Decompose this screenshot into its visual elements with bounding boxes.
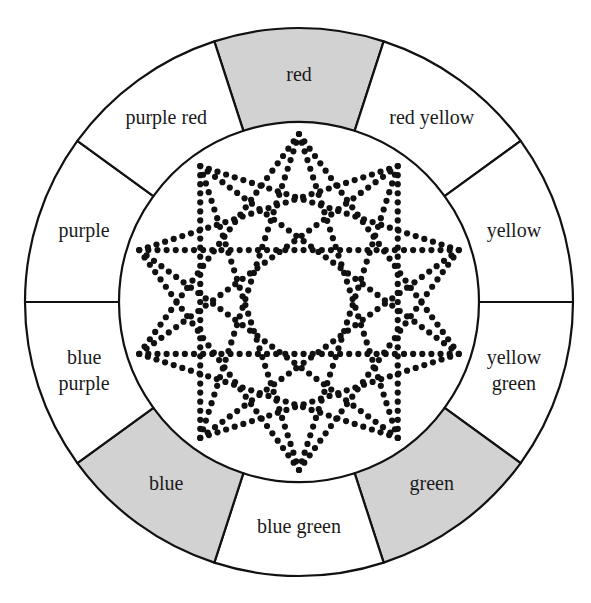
star-dot [296, 467, 302, 473]
star-dot [242, 302, 248, 308]
star-dot [196, 227, 202, 233]
star-dot [291, 401, 297, 407]
star-dot [354, 386, 360, 392]
star-dot [327, 371, 333, 377]
star-dot [254, 337, 260, 343]
star-dot [168, 291, 174, 297]
star-dot [401, 351, 407, 357]
star-dot [287, 441, 293, 447]
star-dot [328, 211, 334, 217]
star-dot [383, 198, 389, 204]
star-dot [171, 236, 177, 242]
star-dot [171, 362, 177, 368]
star-dot [273, 351, 279, 357]
star-dot [328, 351, 334, 357]
star-dot [413, 365, 419, 371]
star-dot [249, 201, 255, 207]
star-dot [265, 371, 271, 377]
star-dot [364, 259, 370, 265]
star-dot [424, 307, 430, 313]
star-dot [317, 160, 323, 166]
star-dot [328, 423, 334, 429]
star-dot [334, 183, 340, 189]
star-dot [197, 163, 203, 169]
star-dot [395, 399, 401, 405]
star-dot [203, 180, 209, 186]
star-dot [279, 183, 285, 189]
star-dot [366, 250, 372, 256]
star-dot [240, 177, 246, 183]
star-dot [309, 398, 315, 404]
star-dot [191, 247, 197, 253]
star-dot [364, 339, 370, 345]
star-dot [266, 412, 272, 418]
star-dot [365, 226, 371, 232]
star-dot [313, 376, 319, 382]
star-dot [197, 254, 203, 260]
star-dot [269, 168, 275, 174]
star-dot [434, 276, 440, 282]
star-dot [382, 297, 388, 303]
segment-label-line: blue green [257, 515, 341, 538]
star-dot [355, 247, 361, 253]
star-dot [346, 351, 352, 357]
star-dot [361, 267, 367, 273]
star-dot [197, 208, 203, 214]
star-dot [376, 241, 382, 247]
star-dot [254, 265, 260, 271]
star-dot [310, 423, 316, 429]
star-dot [223, 357, 229, 363]
star-dot [375, 374, 381, 380]
star-dot [220, 365, 226, 371]
star-dot [326, 205, 332, 211]
star-dot [372, 419, 378, 425]
star-dot [154, 351, 160, 357]
star-dot [367, 286, 373, 292]
star-dot [197, 317, 203, 323]
star-dot [397, 290, 403, 296]
star-dot [269, 430, 275, 436]
star-dot [249, 397, 255, 403]
star-dot [428, 247, 434, 253]
star-dot [197, 408, 203, 414]
star-dot [237, 212, 243, 218]
star-dot [316, 192, 322, 198]
star-dot [365, 372, 371, 378]
star-dot [188, 285, 194, 291]
star-dot [166, 268, 172, 274]
star-dot [216, 357, 222, 363]
star-dot [273, 397, 279, 403]
segment-label-line: purple [59, 219, 110, 242]
star-dot [197, 344, 203, 350]
star-dot [395, 272, 401, 278]
segment-label-red-yellow: red yellow [389, 106, 475, 129]
star-dot [321, 209, 327, 215]
star-dot [352, 293, 358, 299]
star-dot [383, 351, 389, 357]
star-dot [317, 438, 323, 444]
star-dot [395, 317, 401, 323]
star-dot [344, 319, 350, 325]
star-dot [223, 241, 229, 247]
star-dot [248, 319, 254, 325]
star-dot [216, 241, 222, 247]
star-dot [227, 413, 233, 419]
star-dot [401, 247, 407, 253]
star-dot [350, 195, 356, 201]
star-dot [404, 368, 410, 374]
star-dot [336, 392, 342, 398]
segment-label-purple-red: purple red [125, 106, 207, 129]
star-dot [227, 184, 233, 190]
star-dot [337, 265, 343, 271]
star-dot [345, 270, 351, 276]
star-dot [153, 241, 159, 247]
star-dot [395, 380, 401, 386]
star-dot [386, 189, 392, 195]
star-dot [308, 243, 314, 249]
star-dot [328, 387, 334, 393]
star-dot [389, 303, 395, 309]
star-dot [360, 379, 366, 385]
star-dot [395, 254, 401, 260]
star-dot [349, 394, 355, 400]
star-dot [203, 417, 209, 423]
